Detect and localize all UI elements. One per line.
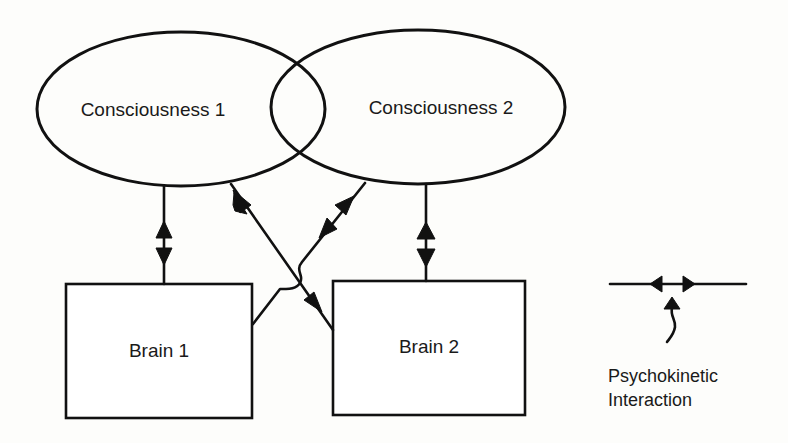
connector-c1-b1 [156,186,172,284]
consciousness-1-label: Consciousness 1 [81,99,226,120]
arrow-down-icon [156,248,172,265]
consciousness-2-node: Consciousness 2 [271,30,565,184]
brain-1-label: Brain 1 [129,340,189,361]
connector-c2-b2 [417,184,435,281]
legend-label-line2: Interaction [608,390,692,410]
brain-1-node: Brain 1 [66,284,252,418]
legend: Psychokinetic Interaction [608,276,746,410]
brain-2-label: Brain 2 [399,336,459,357]
arrow-down-icon [417,249,435,267]
consciousness-2-label: Consciousness 2 [369,97,514,118]
legend-pointer-squiggle [667,308,675,342]
arrow-up-icon [156,221,172,238]
consciousness-1-node: Consciousness 1 [37,32,325,186]
legend-label-line1: Psychokinetic [608,366,718,386]
arrow-down-right-icon [304,292,322,312]
legend-arrow-right-icon [683,276,695,292]
brain-2-node: Brain 2 [333,281,525,415]
legend-arrow-left-icon [650,276,662,292]
psychokinetic-interaction-diagram: Brain 1 Brain 2 Consciousness 1 Consciou… [0,0,788,443]
arrow-up-right-icon [335,196,354,215]
arrow-up-icon [417,222,435,239]
